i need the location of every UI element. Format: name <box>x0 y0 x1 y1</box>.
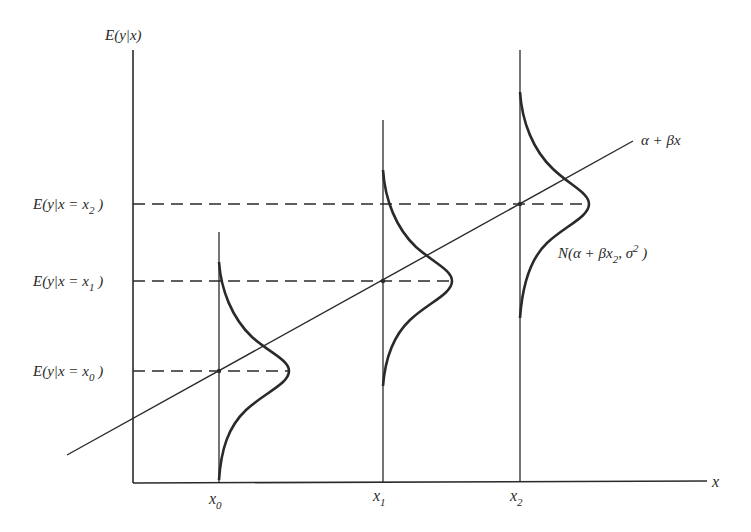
regression-diagram: E(y|x) x α + βx N(α + βx2, σ2 ) E(y|x = … <box>0 0 751 532</box>
x-tick-label-x0: x0 <box>208 490 222 511</box>
xt2-name: x <box>509 487 517 504</box>
mean-point-x2 <box>518 202 522 206</box>
distribution-label-mid: , σ <box>618 245 634 261</box>
xt1-sub: 1 <box>380 496 386 508</box>
xt2-sub: 2 <box>517 496 523 508</box>
normal-curve-x2 <box>520 92 589 318</box>
conditional-mean-label-x1: E(y|x = x1 ) <box>32 273 103 293</box>
conditional-mean-label-x0: E(y|x = x0 ) <box>32 363 103 383</box>
mean-point-x0 <box>217 369 221 373</box>
y-axis-label: E(y|x) <box>104 27 142 44</box>
distribution-label-prefix: N(α + βx <box>557 245 613 262</box>
normal-curve-x1 <box>383 170 452 386</box>
xt0-name: x <box>208 490 216 507</box>
xt0-sub: 0 <box>216 499 222 511</box>
diagram-canvas: E(y|x) x α + βx N(α + βx2, σ2 ) E(y|x = … <box>0 0 751 532</box>
cm0-suffix: ) <box>94 363 103 380</box>
regression-line-label: α + βx <box>641 132 681 148</box>
xt1-name: x <box>372 487 380 504</box>
distribution-label-suffix: ) <box>639 245 648 262</box>
cm2-prefix: E(y|x = x <box>32 196 89 213</box>
x-axis-label: x <box>711 473 719 490</box>
regression-line <box>67 141 633 455</box>
x-tick-label-x2: x2 <box>509 487 523 508</box>
cm1-suffix: ) <box>94 273 103 290</box>
cm0-prefix: E(y|x = x <box>32 363 89 380</box>
cm2-suffix: ) <box>94 196 103 213</box>
distribution-label: N(α + βx2, σ2 ) <box>557 242 647 265</box>
cm1-prefix: E(y|x = x <box>32 273 89 290</box>
x-tick-label-x1: x1 <box>372 487 386 508</box>
conditional-mean-label-x2: E(y|x = x2 ) <box>32 196 103 216</box>
mean-point-x1 <box>381 279 385 283</box>
